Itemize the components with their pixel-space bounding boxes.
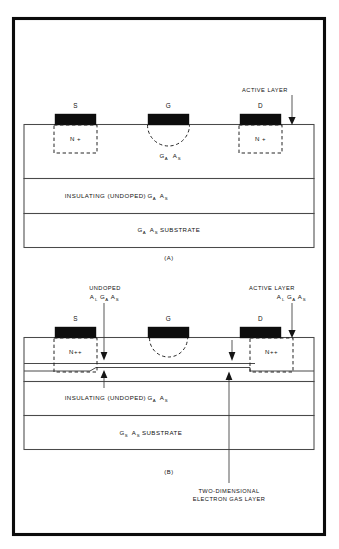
panel-a-caption: (A): [164, 255, 173, 261]
panel-b-insulating-prefix: INSULATING (UNDOPED): [65, 394, 146, 401]
panel-a-gate-contact: [148, 114, 189, 125]
panel-a-source-label: S: [73, 102, 78, 109]
panel-b-gate-contact: [148, 327, 189, 338]
figure-root: S N + G G A A S D N +: [0, 0, 339, 549]
panel-a-substrate-suffix: SUBSTRATE: [160, 226, 200, 233]
panel-b-drain-n-plus-plus-label: N++: [265, 348, 278, 355]
panel-b-drain-label: D: [258, 315, 263, 322]
panel-b-insulating-g: G: [147, 394, 152, 401]
panel-a-substrate-g-sub: A: [143, 230, 146, 235]
panel-a-drain-contact: [240, 114, 281, 125]
panel-b-2deg-line1: TWO-DIMENSIONAL: [198, 488, 259, 494]
panel-b-substrate-g: G: [119, 429, 124, 436]
panel-a-recess-a-sub: S: [178, 156, 181, 161]
panel-a-insulating-a-sub: S: [165, 196, 168, 201]
panel-a-source-contact: [55, 114, 96, 125]
panel-b-source-label: S: [73, 315, 78, 322]
panel-a-recess-g-sub: A: [165, 156, 168, 161]
device-cross-section-diagram: S N + G G A A S D N +: [0, 0, 339, 549]
panel-b-substrate-suffix: SUBSTRATE: [142, 429, 182, 436]
panel-a-substrate-a-sub: S: [155, 230, 158, 235]
panel-a-drain-n-plus-label: N +: [255, 135, 266, 142]
panel-b-substrate-a-sub: S: [137, 433, 140, 438]
panel-b-source-n-plus-plus-label: N++: [69, 348, 82, 355]
panel-b-active-as-sub: S: [303, 297, 306, 302]
panel-b-active-callout-line1: ACTIVE LAYER: [249, 285, 295, 291]
canvas-background: [0, 0, 339, 549]
panel-b-gate-label: G: [166, 315, 171, 322]
panel-b-2deg-line2: ELECTRON GAS LAYER: [193, 496, 265, 502]
panel-b-undoped-ga-sub: A: [105, 297, 108, 302]
panel-b-active-ga-base: G: [287, 293, 292, 300]
panel-b-caption: (B): [164, 469, 173, 475]
panel-b-active-al-sub: L: [282, 297, 285, 302]
panel-a-insulating-g-sub: A: [153, 196, 156, 201]
panel-a-gate-label: G: [166, 102, 171, 109]
panel-b-undoped-callout-line1: UNDOPED: [89, 285, 121, 291]
panel-b-undoped-ga-base: G: [100, 293, 105, 300]
panel-a-insulating-g: G: [147, 192, 152, 199]
panel-a-drain-label: D: [258, 102, 263, 109]
panel-b-drain-contact: [240, 327, 281, 338]
panel-b-undoped-as-sub: S: [116, 297, 119, 302]
panel-b-insulating-a-sub: S: [165, 398, 168, 403]
panel-b-source-contact: [55, 327, 96, 338]
panel-a-active-layer-callout-text: ACTIVE LAYER: [242, 87, 288, 93]
panel-a-substrate-g: G: [137, 226, 142, 233]
panel-b-undoped-al-sub: L: [95, 297, 98, 302]
panel-a-source-n-plus-label: N +: [70, 135, 81, 142]
panel-a-recess-g: G: [159, 152, 164, 159]
panel-b-active-ga-sub: A: [292, 297, 295, 302]
panel-b-substrate-g-sub: S: [125, 433, 128, 438]
panel-a-insulating-prefix: INSULATING (UNDOPED): [65, 192, 146, 199]
panel-b-insulating-g-sub: A: [153, 398, 156, 403]
